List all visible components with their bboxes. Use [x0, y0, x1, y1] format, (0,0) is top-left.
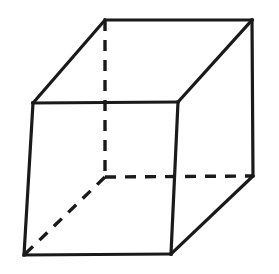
cube-diagram — [0, 0, 279, 274]
front-face-bottom — [24, 254, 171, 255]
right-face-back — [252, 20, 253, 176]
cube-figure-container — [0, 0, 279, 274]
front-face-top — [33, 102, 178, 103]
